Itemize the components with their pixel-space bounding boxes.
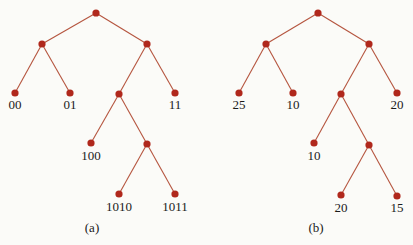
tree-a-leaf-node xyxy=(171,190,178,197)
tree-a-leaf-node xyxy=(115,190,122,197)
tree-a-leaf-node xyxy=(66,89,73,96)
tree-b-leaf-node xyxy=(337,191,344,198)
tree-a-leaf-label: 11 xyxy=(169,97,182,112)
tree-a-leaf-label: 1010 xyxy=(106,199,132,214)
tree-a-leaf-node xyxy=(87,139,94,146)
tree-a-leaf-label: 100 xyxy=(81,148,101,163)
tree-b-leaf-label: 25 xyxy=(233,97,246,112)
tree-b-leaf-node xyxy=(393,192,400,199)
tree-b: 25 10 20 10 20 15 (b) xyxy=(233,9,404,235)
tree-a-leaf-node xyxy=(11,89,18,96)
tree-b-leaf-label: 10 xyxy=(308,148,321,163)
tree-b-caption: (b) xyxy=(308,220,323,235)
tree-b-node xyxy=(262,40,269,47)
tree-a-root-node xyxy=(92,9,99,16)
tree-b-leaf-label: 20 xyxy=(391,97,404,112)
tree-b-leaf-node xyxy=(235,89,242,96)
tree-b-node xyxy=(365,141,372,148)
tree-b-node xyxy=(337,90,344,97)
binary-trees-diagram: 00 01 11 100 1010 1011 (a) 25 10 20 10 xyxy=(0,0,413,245)
tree-a: 00 01 11 100 1010 1011 (a) xyxy=(9,9,188,235)
tree-a-node xyxy=(143,140,150,147)
tree-b-leaf-label: 20 xyxy=(335,200,348,215)
tree-b-leaf-label: 15 xyxy=(391,200,404,215)
tree-b-leaf-node xyxy=(310,139,317,146)
tree-a-leaf-label: 01 xyxy=(64,97,77,112)
tree-a-node xyxy=(115,90,122,97)
tree-a-leaf-label: 1011 xyxy=(162,199,188,214)
tree-a-leaf-node xyxy=(171,89,178,96)
tree-a-caption: (a) xyxy=(85,220,99,235)
tree-b-root-node xyxy=(314,9,321,16)
tree-b-leaf-node xyxy=(393,89,400,96)
tree-b-leaf-node xyxy=(289,89,296,96)
tree-b-node xyxy=(365,40,372,47)
tree-b-leaf-label: 10 xyxy=(287,97,300,112)
tree-a-node xyxy=(143,40,150,47)
tree-a-node xyxy=(38,40,45,47)
tree-a-leaf-label: 00 xyxy=(9,97,22,112)
